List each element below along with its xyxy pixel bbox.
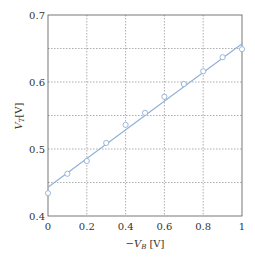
data-point-marker (45, 191, 50, 196)
data-point-marker (220, 55, 225, 60)
x-tick-label: 0.4 (118, 221, 134, 232)
y-tick-label: 0.7 (29, 10, 45, 21)
y-tick-label: 0.6 (29, 77, 45, 88)
x-tick-label: 0.2 (79, 221, 95, 232)
y-tick-label: 0.4 (29, 211, 45, 222)
data-point-marker (181, 81, 186, 86)
data-point-marker (84, 158, 89, 163)
chart: 00.20.40.60.81 0.40.50.60.7 −VB [V] VT[V… (0, 0, 255, 260)
data-point-marker (201, 69, 206, 74)
data-point-marker (142, 110, 147, 115)
x-tick-labels: 00.20.40.60.81 (45, 221, 245, 232)
data-series (45, 44, 244, 196)
x-tick-label: 1 (239, 221, 245, 232)
y-axis-label: VT[V] (13, 102, 26, 129)
x-axis-label: −VB [V] (126, 238, 165, 251)
data-point-marker (123, 122, 128, 127)
x-tick-label: 0.6 (156, 221, 172, 232)
x-tick-label: 0 (45, 221, 51, 232)
y-tick-labels: 0.40.50.60.7 (29, 10, 45, 222)
data-point-marker (65, 171, 70, 176)
x-tick-label: 0.8 (195, 221, 211, 232)
data-point-marker (239, 47, 244, 52)
y-tick-label: 0.5 (29, 144, 45, 155)
data-point-marker (162, 94, 167, 99)
data-point-marker (104, 140, 109, 145)
